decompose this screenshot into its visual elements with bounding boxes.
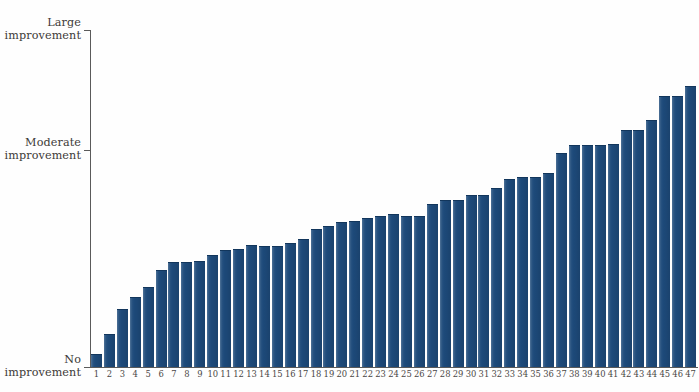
bar[interactable] bbox=[621, 130, 632, 367]
bar-slot bbox=[272, 30, 283, 367]
bar[interactable] bbox=[207, 255, 218, 367]
bar-slot bbox=[91, 30, 102, 367]
bar[interactable] bbox=[491, 188, 502, 367]
bar-slot bbox=[569, 30, 580, 367]
bar[interactable] bbox=[168, 262, 179, 367]
bar[interactable] bbox=[311, 229, 322, 367]
bar[interactable] bbox=[453, 200, 464, 367]
bar[interactable] bbox=[659, 96, 670, 367]
bar-slot bbox=[181, 30, 192, 367]
bar[interactable] bbox=[362, 218, 373, 367]
bar[interactable] bbox=[375, 216, 386, 367]
bar-slot bbox=[685, 30, 696, 367]
bar-slot bbox=[621, 30, 632, 367]
bar-slot bbox=[233, 30, 244, 367]
x-axis-tick-labels: 1234567891011121314151617181920212223242… bbox=[91, 369, 698, 385]
bar[interactable] bbox=[530, 177, 541, 367]
bar-slot bbox=[543, 30, 554, 367]
y-axis-label-moderate-line1: Moderate bbox=[5, 137, 81, 150]
bar[interactable] bbox=[156, 270, 167, 367]
plot-area bbox=[91, 30, 698, 367]
bar[interactable] bbox=[401, 216, 412, 367]
bar-slot bbox=[504, 30, 515, 367]
bar[interactable] bbox=[117, 309, 128, 367]
bar[interactable] bbox=[336, 222, 347, 367]
bar[interactable] bbox=[633, 130, 644, 367]
y-axis-label-large: Large improvement bbox=[5, 17, 81, 42]
bar[interactable] bbox=[582, 145, 593, 367]
bar-slot bbox=[491, 30, 502, 367]
bar-slot bbox=[595, 30, 606, 367]
bar[interactable] bbox=[130, 297, 141, 367]
bar-slot bbox=[285, 30, 296, 367]
bar[interactable] bbox=[220, 250, 231, 367]
bar-slot bbox=[130, 30, 141, 367]
bar[interactable] bbox=[504, 179, 515, 367]
bar-slot bbox=[672, 30, 683, 367]
bar[interactable] bbox=[685, 86, 696, 367]
bar-slot bbox=[194, 30, 205, 367]
bar[interactable] bbox=[608, 144, 619, 367]
bar-slot bbox=[104, 30, 115, 367]
y-axis-label-moderate-line2: improvement bbox=[5, 150, 81, 163]
bar[interactable] bbox=[556, 153, 567, 367]
bar[interactable] bbox=[91, 354, 102, 367]
bar[interactable] bbox=[543, 173, 554, 367]
bar-slot bbox=[259, 30, 270, 367]
bar[interactable] bbox=[466, 195, 477, 367]
y-axis-label-moderate: Moderate improvement bbox=[5, 137, 81, 162]
bar-slot bbox=[530, 30, 541, 367]
bar[interactable] bbox=[143, 287, 154, 367]
bar[interactable] bbox=[323, 226, 334, 367]
bar-slot bbox=[414, 30, 425, 367]
bar-slot bbox=[388, 30, 399, 367]
bar-slot bbox=[453, 30, 464, 367]
y-axis-label-none-line2: improvement bbox=[5, 367, 81, 380]
bar-slot bbox=[156, 30, 167, 367]
bar-slot bbox=[427, 30, 438, 367]
bar[interactable] bbox=[414, 216, 425, 367]
bar[interactable] bbox=[259, 246, 270, 367]
bar-slot bbox=[323, 30, 334, 367]
bar-slot bbox=[582, 30, 593, 367]
bar[interactable] bbox=[349, 221, 360, 367]
bar-slot bbox=[401, 30, 412, 367]
bar-slot bbox=[556, 30, 567, 367]
bar[interactable] bbox=[181, 262, 192, 367]
bar-slot bbox=[646, 30, 657, 367]
x-axis-line bbox=[90, 367, 698, 368]
bar[interactable] bbox=[595, 145, 606, 367]
bar-slot bbox=[143, 30, 154, 367]
bar[interactable] bbox=[246, 245, 257, 367]
bar-slot bbox=[659, 30, 670, 367]
bar-slot bbox=[466, 30, 477, 367]
y-axis-tick-large bbox=[84, 30, 91, 31]
bar[interactable] bbox=[478, 195, 489, 367]
bar[interactable] bbox=[672, 96, 683, 367]
bar[interactable] bbox=[427, 204, 438, 367]
bar[interactable] bbox=[194, 261, 205, 367]
bar-chart: Large improvement Moderate improvement N… bbox=[0, 0, 699, 392]
bar[interactable] bbox=[569, 145, 580, 367]
bar[interactable] bbox=[272, 246, 283, 367]
bar[interactable] bbox=[285, 243, 296, 367]
bar[interactable] bbox=[388, 214, 399, 367]
bar[interactable] bbox=[440, 200, 451, 367]
bar-slot bbox=[168, 30, 179, 367]
bar-slot bbox=[362, 30, 373, 367]
y-axis-label-none-line1: No bbox=[5, 354, 81, 367]
bar[interactable] bbox=[233, 249, 244, 367]
bar[interactable] bbox=[646, 120, 657, 367]
bar-slot bbox=[633, 30, 644, 367]
bar-slot bbox=[478, 30, 489, 367]
bar[interactable] bbox=[298, 239, 309, 367]
bar-slot bbox=[207, 30, 218, 367]
bar[interactable] bbox=[517, 177, 528, 367]
bar-slot bbox=[117, 30, 128, 367]
bar-slot bbox=[349, 30, 360, 367]
bar-slot bbox=[608, 30, 619, 367]
y-axis-label-large-line1: Large bbox=[5, 17, 81, 30]
bar[interactable] bbox=[104, 334, 115, 367]
bar-slot bbox=[298, 30, 309, 367]
x-axis-tick-label: 47 bbox=[682, 369, 699, 380]
